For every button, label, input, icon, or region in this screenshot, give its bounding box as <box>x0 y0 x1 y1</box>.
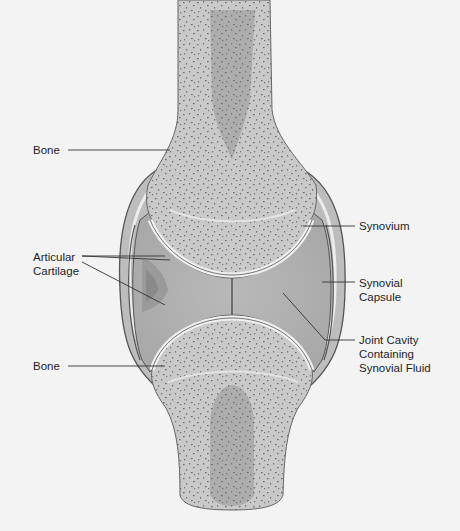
label-joint-cavity: Joint Cavity Containing Synovial Fluid <box>359 333 431 375</box>
label-articular-cartilage: Articular Cartilage <box>33 250 79 278</box>
label-bone-top: Bone <box>33 143 60 157</box>
label-bone-bottom: Bone <box>33 359 60 373</box>
label-synovial-capsule: Synovial Capsule <box>359 276 402 304</box>
label-synovium: Synovium <box>359 219 410 233</box>
